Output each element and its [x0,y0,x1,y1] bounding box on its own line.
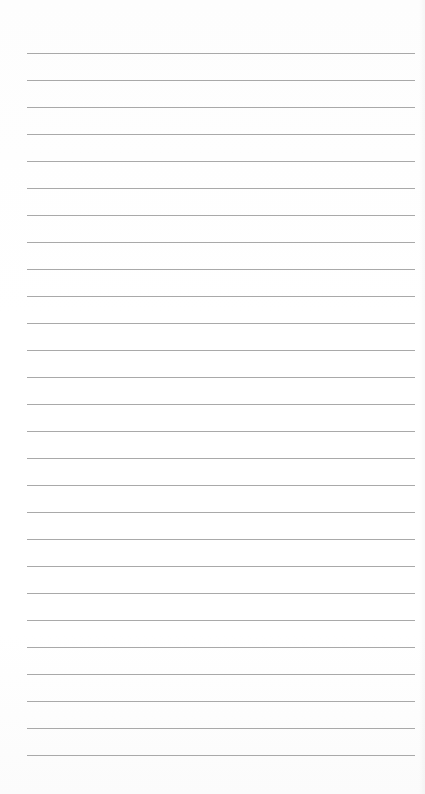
ruled-line [27,485,415,486]
ruled-line [27,296,415,297]
ruled-line [27,161,415,162]
ruled-line [27,701,415,702]
ruled-line [27,728,415,729]
ruled-line [27,431,415,432]
ruled-line [27,674,415,675]
ruled-line [27,620,415,621]
ruled-line [27,107,415,108]
notepad-page [0,0,425,794]
ruled-line [27,188,415,189]
ruled-line [27,566,415,567]
ruled-line [27,134,415,135]
ruled-line [27,269,415,270]
ruled-line [27,242,415,243]
ruled-line [27,458,415,459]
ruled-line [27,377,415,378]
ruled-line [27,323,415,324]
ruled-line [27,350,415,351]
ruled-line [27,215,415,216]
ruled-line [27,647,415,648]
ruled-line [27,539,415,540]
ruled-line [27,53,415,54]
ruled-line [27,755,415,756]
ruled-line [27,512,415,513]
ruled-line [27,593,415,594]
ruled-line [27,80,415,81]
ruled-line [27,404,415,405]
